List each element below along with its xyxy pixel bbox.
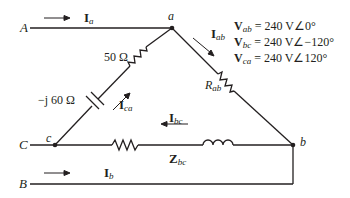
inductor-bc-icon — [203, 140, 233, 145]
node-a-dot — [170, 26, 175, 31]
voltage-vab: Vab = 240 V∠0° — [234, 20, 316, 34]
node-b-dot — [291, 143, 296, 148]
resistor-ca-icon — [128, 47, 147, 66]
capacitor-ca-label: −j 60 Ω — [38, 94, 75, 106]
node-b-label: b — [300, 136, 306, 148]
node-a-label: a — [168, 10, 174, 22]
voltage-vca: Vca = 240 V∠120° — [234, 52, 327, 66]
resistor-bc-icon — [112, 140, 138, 150]
resistor-ca-label: 50 Ω — [104, 51, 128, 63]
node-c-dot — [53, 143, 58, 148]
current-ia-label: Ia — [84, 11, 94, 26]
resistor-ab-label: Rab — [205, 79, 221, 93]
line-b-label: B — [19, 177, 27, 190]
current-iab-label: Iab — [211, 27, 225, 42]
line-a-label: A — [20, 21, 28, 34]
current-ica-label: Ica — [119, 98, 133, 113]
delta-circuit-diagram: A C B a b c Ia Ib Iab Ibc Ica 50 Ω −j 60… — [0, 0, 350, 198]
node-c-label: c — [46, 132, 51, 144]
voltage-vbc: Vbc = 240 V∠−120° — [234, 36, 334, 50]
current-ibc-label: Ibc — [169, 111, 183, 126]
impedance-bc-label: Zbc — [169, 152, 186, 167]
line-c-label: C — [19, 138, 28, 151]
arrow-iab-icon — [193, 38, 211, 53]
current-ib-label: Ib — [104, 166, 114, 181]
